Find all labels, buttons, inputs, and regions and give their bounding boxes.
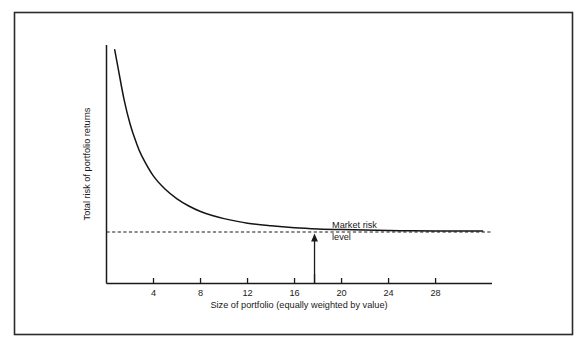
- x-tick-label: 12: [242, 288, 252, 298]
- y-axis-label: Total risk of portfolio returns: [82, 107, 92, 220]
- x-tick-label: 20: [336, 288, 346, 298]
- x-tick-label: 16: [289, 288, 299, 298]
- x-axis-tick-labels: 481216202428: [151, 288, 441, 298]
- x-tick-label: 24: [383, 288, 393, 298]
- x-axis-label: Size of portfolio (equally weighted by v…: [210, 300, 387, 310]
- figure-border: [15, 13, 573, 335]
- total-risk-curve: [115, 50, 483, 231]
- x-tick-label: 4: [151, 288, 156, 298]
- x-tick-label: 8: [198, 288, 203, 298]
- figure-container: 481216202428 Size of portfolio (equally …: [0, 0, 585, 350]
- market-risk-annotation-line-2: level: [332, 232, 351, 242]
- market-risk-arrow: [311, 233, 318, 283]
- market-risk-annotation-line-1: Market risk: [332, 220, 377, 230]
- x-axis-ticks: [154, 278, 436, 284]
- x-tick-label: 28: [430, 288, 440, 298]
- chart-svg: 481216202428 Size of portfolio (equally …: [0, 0, 585, 350]
